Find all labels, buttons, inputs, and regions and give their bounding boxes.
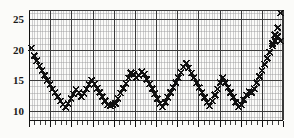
y-tick-label: 15 xyxy=(13,74,25,86)
chart-figure: 10152025 xyxy=(0,0,294,138)
chart-svg: 10152025 xyxy=(0,0,294,138)
y-tick-label: 10 xyxy=(13,105,25,117)
y-tick-label: 25 xyxy=(13,13,25,25)
y-tick-label: 20 xyxy=(13,44,25,56)
